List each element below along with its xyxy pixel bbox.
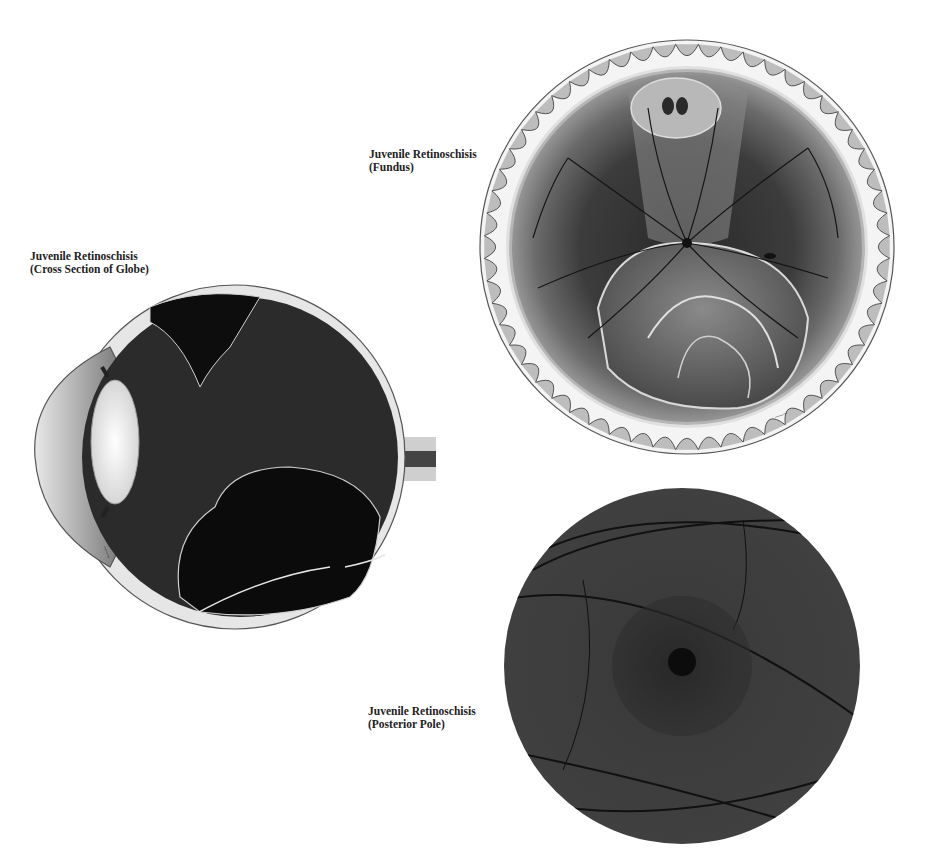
caption-cross-section-subtitle: (Cross Section of Globe) (30, 263, 149, 276)
optic-disc (682, 238, 692, 248)
posterior-pole-drawing (503, 480, 861, 852)
caption-fundus-title: Juvenile Retinoschisis (369, 148, 477, 161)
cross-section-drawing: ~~~ (30, 277, 436, 635)
caption-fundus: Juvenile Retinoschisis (Fundus) (369, 148, 477, 174)
lens (91, 380, 139, 504)
caption-cross-section-title: Juvenile Retinoschisis (30, 250, 149, 263)
caption-posterior-pole: Juvenile Retinoschisis (Posterior Pole) (368, 705, 476, 731)
fovea (668, 648, 696, 676)
superior-hole-area (631, 78, 721, 138)
fundus-drawing: ~~~ (478, 38, 896, 456)
fundus-illustration: ~~~ (478, 38, 896, 456)
cross-section-illustration: ~~~ (30, 277, 436, 635)
posterior-pole-image (503, 480, 861, 852)
caption-posterior-pole-title: Juvenile Retinoschisis (368, 705, 476, 718)
caption-posterior-pole-subtitle: (Posterior Pole) (368, 718, 476, 731)
caption-fundus-subtitle: (Fundus) (369, 161, 477, 174)
caption-cross-section: Juvenile Retinoschisis (Cross Section of… (30, 250, 149, 276)
